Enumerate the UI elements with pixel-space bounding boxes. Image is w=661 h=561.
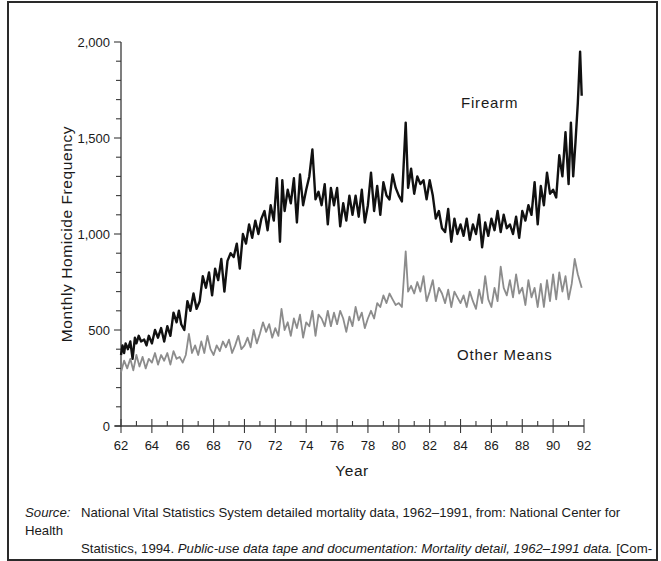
x-tick-label: 84 <box>453 438 467 453</box>
series-label-firearm: Firearm <box>461 94 518 111</box>
x-tick-label: 82 <box>422 438 436 453</box>
y-tick-label: 0 <box>103 419 110 434</box>
source-line-2-plain: Statistics, 1994. <box>81 541 178 556</box>
y-axis-title: Monthly Homicide Frequency <box>58 126 75 342</box>
x-tick-label: 62 <box>114 438 128 453</box>
x-tick-label: 92 <box>577 438 591 453</box>
source-line-2-tail: [Com- <box>613 541 653 556</box>
series-label-other-means: Other Means <box>457 346 553 363</box>
source-line-1: National Vital Statistics System detaile… <box>25 505 620 538</box>
x-tick-label: 72 <box>268 438 282 453</box>
y-tick-label: 1,000 <box>77 227 110 242</box>
x-tick-label: 74 <box>299 438 313 453</box>
source-lead: Source: <box>25 504 81 522</box>
x-tick-label: 70 <box>237 438 251 453</box>
source-line-2-title: Public-use data tape and documentation: … <box>178 541 613 556</box>
x-tick-label: 86 <box>484 438 498 453</box>
source-note: Source:National Vital Statistics System … <box>25 504 655 558</box>
x-tick-label: 88 <box>515 438 529 453</box>
x-tick-label: 80 <box>392 438 406 453</box>
y-tick-label: 1,500 <box>77 131 110 146</box>
x-axis: 62646668707274767880828486889092 <box>114 419 591 453</box>
x-tick-label: 66 <box>175 438 189 453</box>
x-tick-label: 76 <box>330 438 344 453</box>
x-tick-label: 78 <box>361 438 375 453</box>
y-tick-label: 500 <box>88 323 110 338</box>
x-tick-label: 68 <box>206 438 220 453</box>
y-tick-label: 2,000 <box>77 35 110 50</box>
chart: 05001,0001,5002,000 62646668707274767880… <box>0 0 661 500</box>
x-tick-label: 64 <box>145 438 159 453</box>
y-axis: 05001,0001,5002,000 <box>77 35 121 434</box>
x-tick-label: 90 <box>546 438 560 453</box>
x-axis-title: Year <box>335 462 369 479</box>
